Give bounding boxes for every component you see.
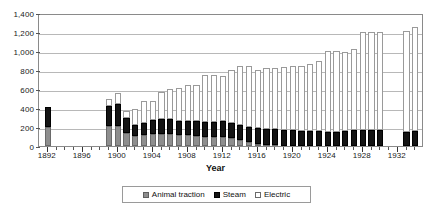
bar-segment-electric — [342, 52, 348, 131]
bar-segment-animal-traction — [141, 135, 147, 146]
x-axis-tick — [143, 147, 144, 150]
bar-segment-animal-traction — [193, 136, 199, 146]
bar-stack — [290, 13, 296, 146]
bar-stack — [255, 13, 261, 146]
x-axis-tick — [108, 147, 109, 150]
bar-stack — [150, 13, 156, 146]
bar-segment-electric — [176, 88, 182, 121]
bar-stack — [298, 13, 304, 146]
bar-segment-steam — [342, 131, 348, 146]
legend-swatch-electric-icon — [255, 192, 261, 198]
bar-segment-steam — [106, 106, 112, 126]
x-axis-tick — [274, 147, 275, 150]
y-axis-tick-label: 200 — [20, 124, 34, 133]
x-axis-tick — [414, 147, 415, 150]
bar-stack — [132, 13, 138, 146]
bar-segment-animal-traction — [123, 133, 129, 146]
bar-segment-electric — [368, 32, 374, 130]
bar-stack — [220, 13, 226, 146]
bar-segment-electric — [211, 75, 217, 122]
bar-segment-electric — [290, 66, 296, 131]
x-axis-tick — [283, 147, 284, 150]
chart-figure: 02004006008001,0001,2001,400 18921896190… — [0, 0, 431, 219]
bar-segment-electric — [220, 76, 226, 121]
legend-item-steam[interactable]: Steam — [214, 190, 246, 199]
bar-segment-electric — [412, 27, 418, 131]
bar-segment-animal-traction — [185, 135, 191, 146]
x-axis-tick — [91, 147, 92, 150]
bar-stack — [351, 13, 357, 146]
bar-segment-electric — [202, 75, 208, 122]
bar-segment-animal-traction — [167, 134, 173, 146]
bar-segment-steam — [141, 123, 147, 135]
bar-segment-steam — [150, 120, 156, 133]
y-axis-tick-label: 1,200 — [13, 29, 34, 38]
bar-segment-steam — [298, 131, 304, 146]
bar-stack — [368, 13, 374, 146]
bar-segment-steam — [158, 119, 164, 133]
bar-segment-animal-traction — [176, 135, 182, 146]
y-axis-tick — [36, 52, 40, 53]
bar-segment-steam — [360, 130, 366, 146]
bar-segment-animal-traction — [202, 137, 208, 147]
bar-segment-animal-traction — [106, 126, 112, 146]
bar-stack — [193, 13, 199, 146]
bar-segment-steam — [255, 128, 261, 144]
x-axis-tick-label: 1924 — [318, 151, 336, 160]
bar-segment-steam — [307, 131, 313, 146]
bar-segment-animal-traction — [158, 134, 164, 146]
bar-stack — [106, 13, 112, 146]
x-axis-tick — [406, 147, 407, 150]
bar-stack — [202, 13, 208, 146]
y-axis-tick-label: 400 — [20, 105, 34, 114]
legend-item-electric[interactable]: Electric — [255, 190, 290, 199]
x-axis-title: Year — [0, 163, 431, 173]
y-axis-tick — [36, 90, 40, 91]
y-axis-tick — [36, 71, 40, 72]
bar-segment-steam — [281, 130, 287, 146]
legend-swatch-steam-icon — [214, 192, 220, 198]
x-axis-tick — [248, 147, 249, 150]
x-axis-tick — [266, 147, 267, 150]
x-axis-tick-label: 1916 — [248, 151, 266, 160]
y-axis-tick-label: 1,000 — [13, 48, 34, 57]
bar-segment-steam — [290, 130, 296, 146]
x-axis-tick — [178, 147, 179, 150]
chart-legend: Animal tractionSteamElectric — [122, 186, 311, 203]
bar-segment-steam — [211, 122, 217, 137]
x-axis-tick — [56, 147, 57, 150]
x-axis-tick — [73, 147, 74, 150]
bar-segment-electric — [237, 66, 243, 125]
bar-segment-steam — [263, 129, 269, 145]
bar-segment-electric — [272, 68, 278, 130]
x-axis-tick — [336, 147, 337, 150]
bar-segment-animal-traction — [150, 134, 156, 146]
x-axis-tick — [126, 147, 127, 150]
bar-stack — [167, 13, 173, 146]
bar-segment-steam — [193, 121, 199, 135]
legend-label: Steam — [223, 190, 246, 199]
bar-segment-animal-traction — [228, 138, 234, 146]
y-axis-tick — [36, 14, 40, 15]
bar-stack — [185, 13, 191, 146]
bar-stack — [123, 13, 129, 146]
bar-stack — [333, 13, 339, 146]
x-axis-tick-label: 1900 — [108, 151, 126, 160]
y-axis-tick-label: 600 — [20, 86, 34, 95]
x-axis-tick — [213, 147, 214, 150]
legend-label: Animal traction — [152, 190, 205, 199]
bar-segment-steam — [272, 129, 278, 145]
bar-stack — [403, 13, 409, 146]
bar-segment-electric — [132, 109, 138, 125]
bar-segment-steam — [246, 127, 252, 142]
legend-item-animal[interactable]: Animal traction — [143, 190, 205, 199]
bar-segment-electric — [351, 49, 357, 130]
x-axis-tick — [99, 147, 100, 150]
bar-segment-electric — [228, 70, 234, 123]
plot-area — [38, 14, 423, 147]
x-axis-tick-label: 1912 — [213, 151, 231, 160]
bar-stack — [360, 13, 366, 146]
bar-stack — [176, 13, 182, 146]
bar-segment-electric — [316, 61, 322, 131]
bar-stack — [158, 13, 164, 146]
